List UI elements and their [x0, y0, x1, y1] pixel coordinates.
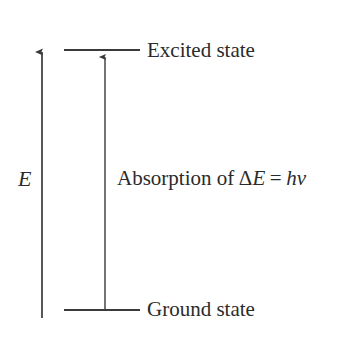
- planck-constant-symbol: h: [286, 166, 297, 190]
- energy-axis-label: E: [18, 168, 31, 190]
- absorption-caption: Absorption ofΔE=hν: [117, 168, 306, 189]
- ground-state-label: Ground state: [147, 299, 255, 320]
- excited-state-label: Excited state: [147, 40, 255, 61]
- energy-level-diagram: E Excited state Ground state Absorption …: [0, 0, 352, 340]
- energy-symbol: E: [252, 166, 265, 190]
- delta-symbol: Δ: [239, 166, 253, 190]
- frequency-nu-symbol: ν: [297, 166, 306, 190]
- equals-symbol: =: [270, 166, 282, 190]
- absorption-caption-prefix: Absorption of: [117, 166, 234, 190]
